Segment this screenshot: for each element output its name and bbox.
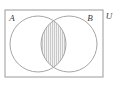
venn-diagram-canvas: A B U bbox=[0, 0, 117, 92]
venn-diagram-figure: A B U bbox=[0, 0, 117, 92]
set-b-label: B bbox=[87, 13, 93, 23]
set-a-label: A bbox=[8, 13, 15, 23]
universal-set-label: U bbox=[106, 11, 113, 21]
